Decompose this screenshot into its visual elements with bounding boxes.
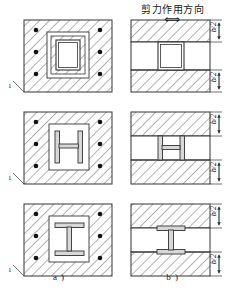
dimension-label-b2: b/2 bbox=[210, 72, 218, 82]
caption-a: a ) bbox=[0, 272, 118, 282]
section-mark-1: 1 bbox=[8, 174, 12, 182]
section-leader-line bbox=[13, 173, 24, 184]
row-box-section bbox=[13, 20, 222, 92]
h-web bbox=[59, 144, 79, 148]
dimension-label-b2: b/2 bbox=[210, 114, 218, 124]
h-web bbox=[162, 146, 180, 150]
dimension-label-b2: b/2 bbox=[210, 206, 218, 216]
cross-section-drawing bbox=[0, 0, 227, 294]
steel-box-inner bbox=[161, 45, 182, 68]
band-top-hatched bbox=[131, 204, 210, 228]
i-left-view bbox=[13, 204, 112, 276]
h-left-view bbox=[13, 112, 112, 184]
section-mark-1: 1 bbox=[8, 82, 12, 90]
caption-b: b ) bbox=[118, 272, 227, 282]
dimension-label-b2: b/2 bbox=[210, 162, 218, 172]
dimension-label-b2: b/2 bbox=[210, 22, 218, 32]
row-h-section bbox=[13, 112, 222, 184]
figure-canvas: 剪力作用方向 ⟺ bbox=[0, 0, 227, 294]
band-top-hatched bbox=[131, 112, 210, 136]
i-flange-bottom bbox=[55, 251, 84, 256]
i-web bbox=[169, 230, 174, 250]
box-left-view bbox=[13, 20, 112, 92]
row-i-section bbox=[13, 204, 222, 276]
section-leader-line bbox=[13, 81, 24, 92]
i-web bbox=[67, 227, 72, 251]
band-bottom-hatched bbox=[131, 70, 210, 92]
h-flange-right bbox=[180, 136, 185, 160]
steel-box-inner bbox=[59, 43, 78, 68]
dimension-label-b2: b/2 bbox=[210, 254, 218, 264]
band-bottom-hatched bbox=[131, 160, 210, 184]
